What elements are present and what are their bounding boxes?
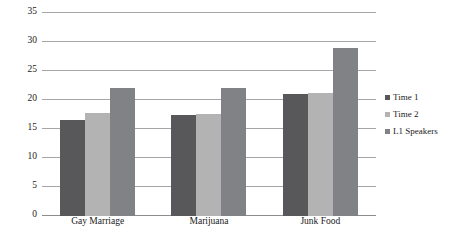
bar-group — [42, 13, 153, 216]
bar — [221, 88, 246, 216]
bar — [171, 115, 196, 217]
bar — [308, 93, 333, 216]
chart-legend: Time 1Time 2L1 Speakers — [385, 93, 438, 136]
bar — [85, 113, 110, 216]
bar — [110, 88, 135, 216]
legend-item: Time 2 — [385, 110, 438, 119]
bars-layer — [42, 13, 376, 216]
legend-swatch-icon — [385, 129, 390, 134]
x-axis-label: Gay Marriage — [42, 216, 153, 226]
x-axis-category-labels: Gay MarriageMarijuanaJunk Food — [42, 216, 376, 226]
legend-swatch-icon — [385, 95, 390, 100]
bar — [60, 120, 85, 216]
y-tick-label: 0 — [32, 210, 37, 220]
y-tick-label: 30 — [28, 36, 38, 46]
legend-label: Time 1 — [393, 93, 418, 102]
legend-label: L1 Speakers — [393, 127, 438, 136]
legend-item: Time 1 — [385, 93, 438, 102]
bar — [283, 94, 308, 216]
x-axis-label: Junk Food — [265, 216, 376, 226]
legend-item: L1 Speakers — [385, 127, 438, 136]
bar-group — [265, 13, 376, 216]
bar-group — [153, 13, 264, 216]
bar-chart: 05101520253035 Gay MarriageMarijuanaJunk… — [0, 0, 454, 246]
y-tick-label: 5 — [32, 181, 37, 191]
y-tick-label: 20 — [28, 94, 38, 104]
bar — [333, 48, 358, 216]
bar — [196, 114, 221, 216]
y-tick-label: 25 — [28, 65, 38, 75]
plot-area: 05101520253035 — [42, 13, 376, 216]
legend-swatch-icon — [385, 112, 390, 117]
y-tick-label: 10 — [28, 152, 38, 162]
x-axis-label: Marijuana — [153, 216, 264, 226]
legend-label: Time 2 — [393, 110, 418, 119]
y-tick-label: 35 — [28, 7, 38, 17]
y-tick-label: 15 — [28, 123, 38, 133]
